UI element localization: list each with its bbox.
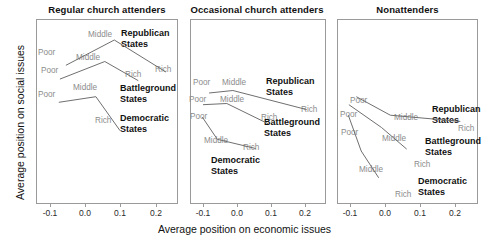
p1-bat-name-line2: States (120, 94, 147, 104)
p2-dem-poor-label: Poor (190, 112, 207, 121)
p3-rep-poor-label: Poor (350, 96, 367, 105)
p2-ticklabel-0: -0.1 (185, 208, 221, 218)
p3-dem-name-line2: States (418, 187, 445, 197)
p3-dem-rich-label: Rich (395, 190, 411, 199)
p1-ticklabel-2: 0.1 (102, 208, 138, 218)
p3-tick-0 (350, 204, 351, 207)
p3-rep-middle-label: Middle (394, 113, 418, 122)
p3-tick-3 (455, 204, 456, 207)
p2-rep-poor-label: Poor (193, 78, 210, 87)
p2-bat-poor-label: Poor (189, 95, 206, 104)
panel-title-regular: Regular church attenders (36, 4, 178, 15)
p1-bat-rich-label: Rich (125, 70, 141, 79)
p1-bat-name-line1: Battleground (120, 83, 176, 93)
p2-dem-middle-label: Middle (204, 136, 228, 145)
p3-ticklabel-2: 0.1 (402, 208, 438, 218)
p2-ticklabel-3: 0.2 (287, 208, 323, 218)
p3-ticklabel-0: -0.1 (332, 208, 368, 218)
p2-ticklabel-1: 0.0 (219, 208, 255, 218)
p1-dem-poor-label: Poor (38, 90, 55, 99)
p3-rep-group-label: Republican States (432, 104, 481, 125)
p1-dem-group-label: Democratic States (120, 113, 169, 134)
p1-bat-group-label: Battleground States (120, 83, 176, 104)
p3-bat-middle-label: Middle (382, 134, 406, 143)
figure-canvas: Average position on social issues Regula… (0, 0, 489, 243)
p2-tick-1 (237, 204, 238, 207)
p1-rep-name-line1: Republican (121, 28, 170, 38)
p2-tick-2 (271, 204, 272, 207)
p1-dem-name-line2: States (120, 124, 147, 134)
x-axis-title: Average position on economic issues (0, 223, 489, 235)
p1-rep-poor-label: Poor (38, 48, 55, 57)
panel-title-nonattenders: Nonattenders (337, 4, 478, 15)
p1-tick-0 (50, 204, 51, 207)
p1-bat-middle-label: Middle (76, 53, 100, 62)
p2-rep-group-label: Republican States (266, 76, 315, 97)
p1-rep-group-label: Republican States (121, 28, 170, 49)
p3-bat-poor-label: Poor (340, 110, 357, 119)
p1-ticklabel-3: 0.2 (138, 208, 174, 218)
p2-dem-name-line1: Democratic (211, 155, 260, 165)
p1-dem-rich-label: Rich (95, 116, 111, 125)
p3-dem-name-line1: Democratic (418, 176, 467, 186)
p1-ticklabel-1: 0.0 (67, 208, 103, 218)
p3-rep-name-line1: Republican (432, 104, 481, 114)
p3-ticklabel-1: 0.0 (367, 208, 403, 218)
p3-dem-poor-label: Poor (341, 128, 358, 137)
p2-bat-middle-label: Middle (220, 95, 244, 104)
p3-ticklabel-3: 0.2 (437, 208, 473, 218)
p3-dem-middle-label: Middle (359, 165, 383, 174)
p2-dem-name-line2: States (211, 166, 238, 176)
p2-bat-name-line2: States (264, 128, 291, 138)
y-axis-title: Average position on social issues (14, 45, 26, 200)
p2-rep-name-line2: States (266, 87, 293, 97)
p1-dem-middle-label: Middle (73, 83, 97, 92)
p2-dem-group-label: Democratic States (211, 155, 260, 176)
p1-tick-3 (156, 204, 157, 207)
p3-bat-group-label: Battleground States (425, 136, 481, 157)
p3-bat-rich-label: Rich (414, 160, 430, 169)
p3-tick-2 (420, 204, 421, 207)
p2-bat-name-line1: Battleground (264, 117, 320, 127)
p1-rep-middle-label: Middle (88, 30, 112, 39)
p3-dem-group-label: Democratic States (418, 176, 467, 197)
p1-rep-name-line2: States (121, 39, 148, 49)
p1-bat-poor-label: Poor (41, 66, 58, 75)
p2-ticklabel-2: 0.1 (253, 208, 289, 218)
p2-rep-name-line1: Republican (266, 76, 315, 86)
p2-rep-rich-label: Rich (301, 105, 317, 114)
p3-tick-1 (385, 204, 386, 207)
p2-tick-3 (305, 204, 306, 207)
panel-title-occasional: Occasional church attenders (186, 4, 328, 15)
p1-tick-2 (120, 204, 121, 207)
p1-dem-name-line1: Democratic (120, 113, 169, 123)
p1-ticklabel-0: -0.1 (32, 208, 68, 218)
p2-bat-group-label: Battleground States (264, 117, 320, 138)
p3-bat-name-line2: States (425, 147, 452, 157)
p3-rep-rich-label: Rich (458, 124, 474, 133)
p3-bat-name-line1: Battleground (425, 136, 481, 146)
p1-tick-1 (85, 204, 86, 207)
p2-dem-rich-label: Rich (243, 143, 259, 152)
p2-tick-0 (203, 204, 204, 207)
p1-rep-rich-label: Rich (155, 65, 171, 74)
p3-rep-name-line2: States (432, 115, 459, 125)
p2-rep-middle-label: Middle (222, 78, 246, 87)
